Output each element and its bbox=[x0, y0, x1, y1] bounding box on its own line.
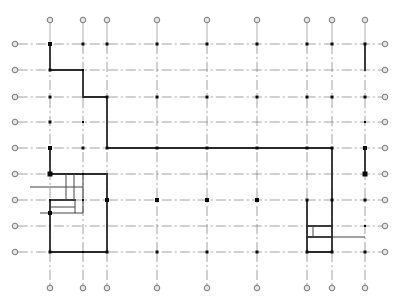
column-marker bbox=[82, 43, 85, 46]
grid-bubble-right bbox=[382, 119, 388, 125]
column-marker bbox=[106, 251, 109, 254]
grid-bubble-top bbox=[47, 17, 53, 23]
column-marker bbox=[206, 43, 209, 46]
column-marker bbox=[206, 96, 209, 99]
column-marker bbox=[48, 42, 52, 46]
grid-bubble-left bbox=[12, 197, 18, 203]
grid-bubble-bottom bbox=[47, 285, 53, 291]
grid-bubble-right bbox=[382, 67, 388, 73]
column-marker bbox=[256, 147, 259, 150]
column-marker bbox=[206, 147, 209, 150]
column-marker bbox=[49, 121, 52, 124]
grid-bubble-top bbox=[104, 17, 110, 23]
column-marker bbox=[106, 43, 109, 46]
column-marker bbox=[364, 225, 366, 227]
column-marker bbox=[364, 43, 367, 46]
column-marker bbox=[49, 69, 52, 72]
column-marker bbox=[364, 199, 367, 202]
grid-bubble-left bbox=[12, 223, 18, 229]
column-marker bbox=[106, 147, 109, 150]
grid-bubble-left bbox=[12, 41, 18, 47]
grid-bubble-right bbox=[382, 41, 388, 47]
grid-bubble-bottom bbox=[254, 285, 260, 291]
column-marker bbox=[156, 147, 159, 150]
column-marker bbox=[256, 96, 259, 99]
grid-bubble-bottom bbox=[362, 285, 368, 291]
column-marker bbox=[206, 251, 209, 254]
grid-bubble-right bbox=[382, 171, 388, 177]
column-marker bbox=[306, 147, 309, 150]
grid-bubble-right bbox=[382, 94, 388, 100]
column-marker bbox=[331, 147, 334, 150]
column-marker bbox=[105, 198, 109, 202]
column-marker bbox=[82, 173, 84, 175]
column-marker bbox=[82, 69, 84, 71]
column-marker bbox=[331, 199, 334, 202]
column-marker bbox=[363, 146, 367, 150]
column-marker bbox=[106, 96, 109, 99]
column-marker bbox=[306, 43, 309, 46]
grid-bubble-left bbox=[12, 145, 18, 151]
column-marker bbox=[156, 43, 159, 46]
column-marker bbox=[155, 198, 159, 202]
column-marker bbox=[48, 211, 52, 215]
floor-plan-drawing bbox=[0, 0, 406, 303]
grid-bubble-top bbox=[329, 17, 335, 23]
column-marker bbox=[82, 251, 84, 253]
column-marker bbox=[364, 251, 367, 254]
column-marker bbox=[82, 199, 84, 201]
grid-bubble-bottom bbox=[329, 285, 335, 291]
column-marker bbox=[331, 96, 334, 99]
column-marker bbox=[205, 198, 209, 202]
grid-bubble-top bbox=[80, 17, 86, 23]
grid-bubble-top bbox=[204, 17, 210, 23]
column-marker bbox=[255, 198, 259, 202]
column-marker bbox=[49, 96, 52, 99]
grid-bubble-right bbox=[382, 197, 388, 203]
grid-bubble-top bbox=[304, 17, 310, 23]
column-marker bbox=[156, 251, 159, 254]
column-marker bbox=[363, 172, 368, 177]
grid-bubble-right bbox=[382, 145, 388, 151]
grid-bubble-left bbox=[12, 119, 18, 125]
column-marker bbox=[48, 172, 53, 177]
grid-bubble-bottom bbox=[80, 285, 86, 291]
column-marker bbox=[364, 96, 367, 99]
grid-bubble-left bbox=[12, 94, 18, 100]
grid-bubble-top bbox=[254, 17, 260, 23]
grid-bubble-right bbox=[382, 249, 388, 255]
grid-bubble-top bbox=[362, 17, 368, 23]
grid-bubble-left bbox=[12, 171, 18, 177]
partition-lines bbox=[30, 174, 365, 237]
column-marker bbox=[49, 199, 51, 201]
column-marker bbox=[306, 199, 309, 202]
column-marker bbox=[306, 251, 309, 254]
column-marker bbox=[331, 43, 334, 46]
column-marker bbox=[82, 121, 84, 123]
column-marker bbox=[156, 96, 159, 99]
grid-bubble-bottom bbox=[204, 285, 210, 291]
column-marker bbox=[82, 147, 85, 150]
grid-bubble-left bbox=[12, 67, 18, 73]
column-marker bbox=[331, 251, 334, 254]
grid-bubble-left bbox=[12, 249, 18, 255]
grid-lines bbox=[18, 23, 382, 285]
column-marker bbox=[306, 96, 309, 99]
column-marker bbox=[48, 146, 52, 150]
column-marker bbox=[256, 43, 259, 46]
grid-bubble-top bbox=[154, 17, 160, 23]
column-marker bbox=[256, 251, 259, 254]
grid-bubble-right bbox=[382, 223, 388, 229]
column-marker bbox=[364, 121, 366, 123]
grid-bubble-bottom bbox=[304, 285, 310, 291]
column-marker bbox=[49, 251, 52, 254]
grid-bubble-bottom bbox=[154, 285, 160, 291]
grid-bubble-bottom bbox=[104, 285, 110, 291]
